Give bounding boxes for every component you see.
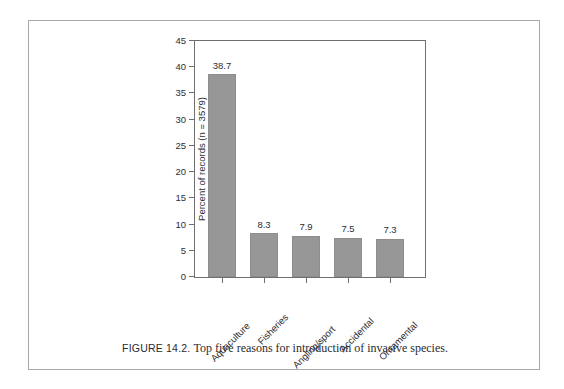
y-axis-tick-label: 5 [181,246,186,256]
y-axis-tick-label: 45 [175,36,186,46]
chart-bar-group: 7.3Ornamental [376,41,404,277]
y-axis-tick-label: 15 [175,194,186,204]
chart-bar-value-label: 8.3 [257,220,270,230]
x-axis-tick-label: Fisheries [283,285,317,319]
y-axis-tick-label: 30 [175,115,186,125]
x-axis-tick [306,277,307,283]
y-axis-tick-label: 40 [175,62,186,72]
chart-bar [208,74,236,277]
figure-caption-label: FIGURE 14.2. [122,342,190,354]
figure-caption-text: Top five reasons for introduction of inv… [193,341,447,355]
chart-bar [292,236,320,277]
chart-bar-group: 7.5Accidental [334,41,362,277]
y-axis-tick-label: 20 [175,167,186,177]
chart-bar-group: 38.7Aquaculture [208,41,236,277]
chart-bar [376,239,404,277]
figure-caption: FIGURE 14.2. Top five reasons for introd… [29,341,541,355]
chart-plot-area: Percent of records (n = 3579) 0510152025… [194,40,426,278]
chart-bar [334,238,362,277]
x-axis-tick [222,277,223,283]
y-axis-tick-label: 0 [181,272,186,282]
x-axis-tick [348,277,349,283]
page-frame: Percent of records (n = 3579) 0510152025… [28,20,540,370]
y-axis-tick-label: 10 [175,220,186,230]
y-axis-tick-label: 25 [175,141,186,151]
chart-bar [250,233,278,277]
chart-bar-value-label: 38.7 [213,61,232,71]
x-axis-tick [264,277,265,283]
chart-bar-value-label: 7.3 [383,225,396,235]
figure-container: Percent of records (n = 3579) 0510152025… [29,21,541,371]
x-axis-tick [390,277,391,283]
chart-bar-group: 7.9Angling/sport [292,41,320,277]
chart-bar-value-label: 7.9 [299,222,312,232]
chart-bars-layer: 38.7Aquaculture8.3Fisheries7.9Angling/sp… [195,41,425,277]
chart-bar-group: 8.3Fisheries [250,41,278,277]
chart-bar-value-label: 7.5 [341,224,354,234]
y-axis-tick-label: 35 [175,89,186,99]
x-axis-tick-label: Ornamental [413,285,455,327]
